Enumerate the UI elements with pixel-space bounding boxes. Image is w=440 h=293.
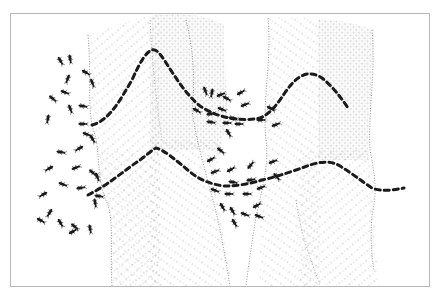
ant-icon — [76, 184, 87, 191]
left-structure — [80, 10, 240, 290]
ant-icon — [56, 218, 66, 229]
ant-icon — [246, 159, 256, 170]
ant-icon — [44, 208, 54, 219]
ant-icon — [56, 56, 66, 67]
ant-icon — [78, 103, 89, 110]
ant-icon — [228, 206, 238, 217]
ant-icon — [67, 54, 74, 65]
ant-icon — [242, 191, 252, 196]
ant-icon — [224, 128, 234, 139]
ant-icon — [37, 190, 48, 200]
ant-icon — [240, 210, 251, 218]
ant-icon — [43, 164, 54, 174]
right-structure-hatch-c — [300, 150, 390, 290]
ant-icon — [87, 224, 94, 235]
ant-icon — [48, 94, 59, 104]
ant-icon — [66, 104, 74, 115]
figure-caption — [10, 289, 430, 293]
ant-icon — [44, 114, 51, 125]
ant-icon — [60, 88, 71, 96]
ant-icon — [94, 193, 105, 200]
ant-icon — [63, 74, 71, 85]
left-structure-hatch-c — [150, 140, 240, 290]
ant-icon — [73, 144, 84, 154]
ant-icon — [234, 121, 244, 126]
ant-icon — [36, 216, 47, 226]
ant-icon — [230, 218, 240, 229]
ant-icon — [228, 115, 239, 122]
ant-icon — [71, 163, 82, 171]
ant-icon — [236, 87, 247, 97]
ant-icon — [92, 198, 99, 209]
ant-icon — [240, 100, 251, 108]
left-structure-hatch-d — [100, 150, 160, 290]
ant-trail-diagram — [0, 0, 440, 293]
ant-icon — [226, 164, 237, 174]
ant-icon — [78, 121, 88, 126]
ant-icon — [58, 180, 69, 188]
right-structure — [246, 10, 390, 290]
ant-icon — [224, 191, 234, 196]
ant-icon — [56, 149, 67, 156]
